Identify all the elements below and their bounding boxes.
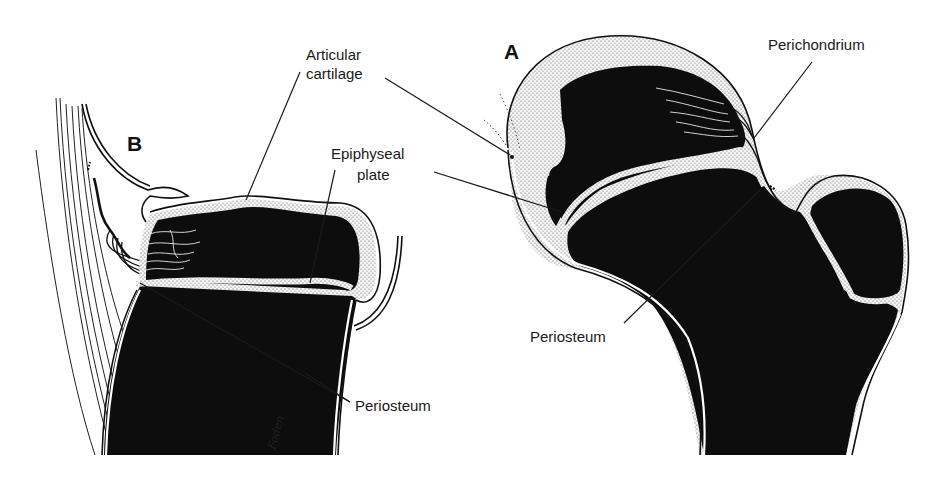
label-epiphyseal-plate-line2: plate	[357, 166, 390, 183]
bone-epiphysis-diagram: A B Articular cartilage Epiphyseal plate…	[0, 0, 937, 477]
label-epiphyseal-plate-line1: Epiphyseal	[331, 145, 404, 162]
panel-letter-b: B	[127, 132, 142, 155]
leader-articular-cartilage-a	[385, 78, 510, 155]
label-articular-cartilage-line2: cartilage	[306, 65, 363, 82]
label-periosteum-b: Periosteum	[355, 397, 431, 414]
label-perichondrium: Perichondrium	[768, 36, 865, 53]
label-periosteum-a: Periosteum	[530, 328, 606, 345]
bone-b-shaft	[104, 285, 356, 455]
leader-articular-cartilage-b	[246, 72, 300, 200]
panel-a	[484, 36, 909, 455]
leader-perichondrium	[754, 62, 812, 138]
panel-letter-a: A	[504, 40, 519, 63]
label-articular-cartilage-line1: Articular	[306, 46, 361, 63]
